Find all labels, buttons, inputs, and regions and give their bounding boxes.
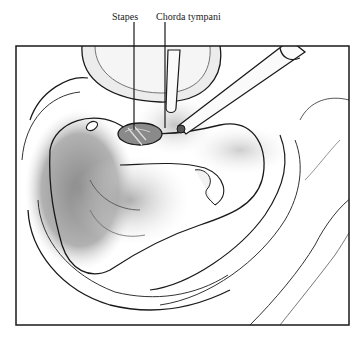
- ear-anatomy-illustration: [0, 0, 362, 345]
- label-chorda-tympani: Chorda tympani: [156, 12, 221, 22]
- drawing-content: [22, 40, 355, 325]
- label-stapes: Stapes: [112, 12, 138, 22]
